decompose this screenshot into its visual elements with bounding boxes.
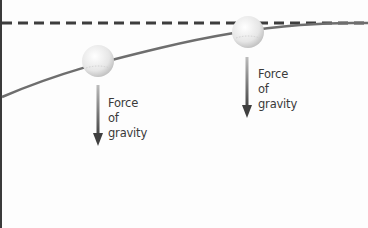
gravity-label-1: Force of gravity: [108, 96, 147, 141]
label-line-gravity: gravity: [108, 126, 147, 141]
gravity-diagram: Force of gravity Force of gravity: [0, 0, 368, 228]
gravity-arrow-1-icon: [93, 85, 103, 146]
baseball-1: [82, 45, 114, 77]
label-line-of: of: [258, 82, 297, 97]
label-line-gravity: gravity: [258, 97, 297, 112]
label-line-force: Force: [258, 67, 297, 82]
gravity-arrow-2-icon: [242, 57, 252, 118]
baseball-2: [232, 16, 264, 48]
trajectory-curve: [2, 23, 368, 97]
diagram-canvas: [0, 0, 368, 228]
label-line-force: Force: [108, 96, 147, 111]
label-line-of: of: [108, 111, 147, 126]
gravity-label-2: Force of gravity: [258, 67, 297, 112]
